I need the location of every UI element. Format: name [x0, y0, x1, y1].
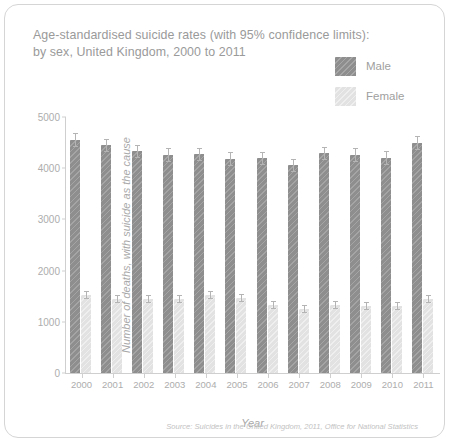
bar-male-2002[interactable]	[132, 151, 142, 373]
x-axis-tick-mark	[361, 374, 362, 378]
bar-female-2004[interactable]	[205, 295, 215, 373]
confidence-interval-male-2000	[75, 133, 76, 146]
bar-male-2003[interactable]	[163, 155, 173, 373]
confidence-interval-female-2000	[86, 291, 87, 299]
x-axis-tick-label: 2009	[346, 379, 377, 390]
confidence-interval-male-2006	[262, 152, 263, 165]
legend-swatch-male-icon	[335, 57, 356, 76]
chart-card: Age-standardised suicide rates (with 95%…	[4, 4, 445, 438]
bar-female-2000[interactable]	[81, 295, 91, 373]
x-axis-tick-mark	[299, 374, 300, 378]
x-axis-tick-label: 2003	[159, 379, 190, 390]
bar-female-2002[interactable]	[143, 299, 153, 373]
bar-group: 2007	[284, 117, 315, 373]
x-axis-tick-mark	[237, 374, 238, 378]
x-axis-tick-label: 2000	[66, 379, 97, 390]
x-axis-tick-mark	[206, 374, 207, 378]
bar-group: 2008	[315, 117, 346, 373]
bar-female-2011[interactable]	[423, 299, 433, 373]
bar-male-2005[interactable]	[225, 159, 235, 373]
confidence-interval-female-2011	[428, 295, 429, 303]
confidence-interval-male-2008	[324, 147, 325, 160]
y-axis-tick-label: 3000	[38, 214, 60, 225]
x-axis-tick-label: 2002	[128, 379, 159, 390]
bar-group: 2006	[253, 117, 284, 373]
bar-female-2007[interactable]	[299, 309, 309, 373]
legend-label-female: Female	[366, 90, 404, 102]
confidence-interval-male-2009	[355, 148, 356, 161]
confidence-interval-male-2007	[293, 159, 294, 172]
bar-male-2001[interactable]	[101, 145, 111, 373]
chart-legend: Male Female	[335, 55, 404, 115]
confidence-interval-female-2003	[179, 295, 180, 303]
bar-group: 2003	[159, 117, 190, 373]
x-axis-tick-label: 2001	[97, 379, 128, 390]
confidence-interval-male-2001	[106, 139, 107, 152]
bar-male-2008[interactable]	[319, 153, 329, 373]
x-axis-tick-label: 2006	[253, 379, 284, 390]
y-axis-tick-label: 4000	[38, 163, 60, 174]
confidence-interval-male-2011	[417, 136, 418, 149]
bar-group: 2010	[377, 117, 408, 373]
confidence-interval-male-2003	[168, 148, 169, 161]
x-axis-tick-mark	[113, 374, 114, 378]
x-axis-tick-mark	[268, 374, 269, 378]
bar-group: 2002	[128, 117, 159, 373]
x-axis-tick-label: 2004	[190, 379, 221, 390]
confidence-interval-female-2004	[210, 291, 211, 299]
y-axis-tick-label: 1000	[38, 316, 60, 327]
x-axis-tick-mark	[144, 374, 145, 378]
bar-male-2004[interactable]	[194, 154, 204, 373]
x-axis-tick-mark	[82, 374, 83, 378]
source-note: Source: Suicides in the United Kingdom, …	[5, 422, 418, 431]
bar-male-2009[interactable]	[350, 155, 360, 373]
bar-male-2010[interactable]	[381, 158, 391, 373]
confidence-interval-male-2010	[386, 151, 387, 164]
y-axis-tick-label: 2000	[38, 265, 60, 276]
bar-female-2009[interactable]	[361, 306, 371, 373]
bar-female-2006[interactable]	[268, 305, 278, 373]
legend-swatch-female-icon	[335, 87, 356, 106]
confidence-interval-female-2006	[273, 301, 274, 309]
confidence-interval-female-2007	[304, 305, 305, 312]
confidence-interval-male-2002	[137, 145, 138, 158]
x-axis-tick-label: 2011	[408, 379, 439, 390]
y-axis-tick-label: 0	[54, 368, 60, 379]
bar-female-2003[interactable]	[174, 299, 184, 373]
bar-group: 2001	[97, 117, 128, 373]
x-axis-tick-mark	[175, 374, 176, 378]
bar-group: 2000	[66, 117, 97, 373]
bar-female-2008[interactable]	[330, 305, 340, 373]
confidence-interval-female-2009	[366, 302, 367, 310]
x-axis-tick-label: 2010	[377, 379, 408, 390]
confidence-interval-female-2010	[397, 302, 398, 310]
bar-group: 2004	[190, 117, 221, 373]
x-axis-tick-mark	[423, 374, 424, 378]
bar-female-2001[interactable]	[112, 299, 122, 373]
legend-label-male: Male	[366, 60, 391, 72]
x-axis-tick-label: 2007	[284, 379, 315, 390]
confidence-interval-female-2005	[241, 294, 242, 302]
confidence-interval-female-2001	[117, 295, 118, 303]
bar-group: 2005	[221, 117, 252, 373]
bar-group: 2009	[346, 117, 377, 373]
x-axis-tick-label: 2008	[315, 379, 346, 390]
x-axis-line	[65, 373, 440, 374]
plot-area: Number of deaths, with suicide as the ca…	[66, 117, 439, 373]
bar-female-2005[interactable]	[236, 298, 246, 373]
x-axis-tick-label: 2005	[221, 379, 252, 390]
bar-male-2011[interactable]	[412, 143, 422, 373]
bar-male-2007[interactable]	[288, 165, 298, 373]
legend-item-male: Male	[335, 55, 404, 77]
confidence-interval-female-2002	[148, 295, 149, 303]
legend-item-female: Female	[335, 85, 404, 107]
confidence-interval-male-2004	[199, 148, 200, 161]
x-axis-tick-mark	[392, 374, 393, 378]
bar-male-2000[interactable]	[70, 140, 80, 373]
x-axis-tick-mark	[330, 374, 331, 378]
y-axis-tick-label: 5000	[38, 112, 60, 123]
bar-male-2006[interactable]	[257, 158, 267, 373]
confidence-interval-female-2008	[335, 301, 336, 309]
chart-title-line-1: Age-standardised suicide rates (with 95%…	[33, 28, 370, 42]
bar-female-2010[interactable]	[392, 306, 402, 373]
